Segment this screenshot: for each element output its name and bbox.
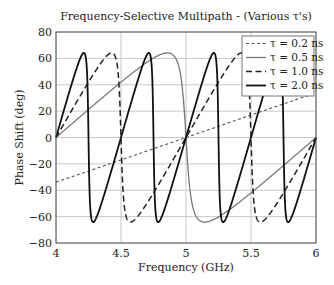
x-axis-ticks: 44.555.56: [53, 247, 320, 260]
legend-entry: τ = 0.2 ns: [270, 37, 323, 49]
y-tick-label: 0: [45, 132, 52, 145]
y-tick-label: −20: [29, 158, 52, 171]
x-axis-label: Frequency (GHz): [138, 261, 234, 274]
x-tick-label: 5.5: [242, 247, 260, 260]
legend-entry: τ = 0.5 ns: [270, 51, 323, 63]
y-tick-label: −80: [29, 237, 52, 250]
y-axis-ticks: 806040200−20−40−60−80: [29, 26, 52, 250]
legend-entry: τ = 1.0 ns: [270, 65, 323, 77]
chart-title: Frequency-Selective Multipath - (Various…: [60, 10, 312, 23]
legend-entry: τ = 2.0 ns: [270, 79, 323, 91]
y-tick-label: 20: [38, 105, 52, 118]
legend: τ = 0.2 nsτ = 0.5 nsτ = 1.0 nsτ = 2.0 ns: [242, 36, 323, 96]
phase-shift-chart: Frequency-Selective Multipath - (Various…: [0, 0, 334, 285]
x-tick-label: 5: [183, 247, 190, 260]
x-tick-label: 4: [53, 247, 60, 260]
x-tick-label: 6: [313, 247, 320, 260]
y-axis-label: Phase Shift (deg): [13, 90, 26, 186]
x-tick-label: 4.5: [112, 247, 130, 260]
y-tick-label: −40: [29, 184, 52, 197]
y-tick-label: −60: [29, 211, 52, 224]
y-tick-label: 80: [38, 26, 52, 39]
y-tick-label: 60: [38, 52, 52, 65]
y-tick-label: 40: [38, 79, 52, 92]
